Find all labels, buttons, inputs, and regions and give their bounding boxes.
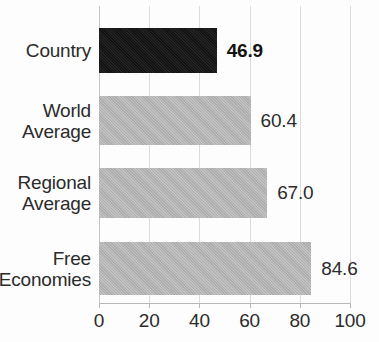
bar-chart: 46.960.467.084.6 020406080100 CountryWor… [0,0,379,342]
x-tick-80 [300,303,301,308]
bar-regional-average[interactable] [99,168,267,218]
category-label-line: Regional [18,172,91,193]
category-label-line: Average [22,121,91,142]
x-tick-20 [149,303,150,308]
x-axis-line [99,303,350,304]
bar-world-average[interactable] [99,96,251,145]
category-label-line: Country [26,40,91,61]
plot-area: 46.960.467.084.6 [99,6,350,303]
bar-row: 67.0 [99,168,350,218]
x-tick-label-20: 20 [139,310,160,332]
category-label-line: Average [22,193,91,214]
x-tick-0 [99,303,100,308]
x-tick-label-80: 80 [289,310,310,332]
bar-free-economies[interactable] [99,242,311,295]
x-tick-40 [199,303,200,308]
bar-row: 60.4 [99,96,350,145]
value-label-world-average: 60.4 [261,110,297,132]
value-label-free-economies: 84.6 [321,258,357,280]
x-tick-100 [350,303,351,308]
category-label-line: Free [53,248,91,269]
value-label-regional-average: 67.0 [277,182,313,204]
category-label-free-economies: FreeEconomies [0,242,91,295]
category-label-regional-average: RegionalAverage [18,168,91,218]
bar-country[interactable] [99,28,217,73]
x-tick-label-60: 60 [239,310,260,332]
x-tick-label-100: 100 [334,310,365,332]
category-label-line: Economies [0,269,91,290]
bar-row: 84.6 [99,242,350,295]
x-tick-60 [250,303,251,308]
category-label-line: World [43,100,91,121]
category-label-world-average: WorldAverage [22,96,91,145]
bar-row: 46.9 [99,28,350,73]
x-tick-label-0: 0 [94,310,104,332]
value-label-country: 46.9 [227,40,263,62]
x-tick-label-40: 40 [189,310,210,332]
category-label-country: Country [26,28,91,73]
